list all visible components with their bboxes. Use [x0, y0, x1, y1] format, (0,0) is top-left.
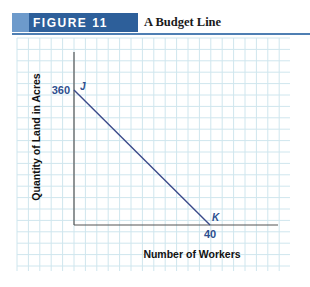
grid	[17, 38, 290, 271]
point-j-label: J	[80, 81, 86, 92]
budget-line-chart: 360 40 J K Number of Workers Quantity of…	[0, 0, 310, 287]
x-axis-title: Number of Workers	[143, 248, 240, 260]
y-axis-title: Quantity of Land in Acres	[30, 73, 42, 201]
x-tick-label: 40	[204, 228, 216, 240]
y-tick-label: 360	[52, 84, 70, 96]
point-k-label: K	[212, 212, 220, 223]
